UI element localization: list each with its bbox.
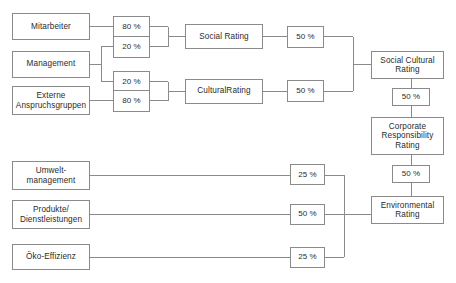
weight-mitarbeiter-social[interactable]: 80 % <box>113 16 150 38</box>
node-cultural-rating[interactable]: CulturalRating <box>185 79 263 104</box>
weight-oeko[interactable]: 25 % <box>290 247 325 268</box>
node-produkte-dienstleistungen[interactable]: Produkte/ Dienstleistungen <box>12 200 90 229</box>
node-corporate-responsibility-rating[interactable]: Corporate Responsibility Rating <box>371 117 444 155</box>
weight-management-social[interactable]: 20 % <box>113 36 150 58</box>
node-umweltmanagement[interactable]: Umwelt- management <box>12 161 90 190</box>
node-environmental-rating[interactable]: Environmental Rating <box>371 196 444 224</box>
node-management[interactable]: Management <box>12 51 90 78</box>
node-oeko-effizienz[interactable]: Öko-Effizienz <box>12 244 90 270</box>
weight-socialcultural-corporate[interactable]: 50 % <box>392 88 430 106</box>
node-social-rating[interactable]: Social Rating <box>185 24 263 49</box>
weight-externe-cultural[interactable]: 80 % <box>113 90 150 112</box>
weight-social-rating[interactable]: 50 % <box>287 26 324 48</box>
diagram-canvas: Mitarbeiter Management Externe Anspruchs… <box>0 0 456 283</box>
node-externe-anspruchsgruppen[interactable]: Externe Anspruchsgruppen <box>12 86 90 115</box>
weight-produkte[interactable]: 50 % <box>290 204 325 225</box>
weight-umwelt[interactable]: 25 % <box>290 164 325 185</box>
node-social-cultural-rating[interactable]: Social Cultural Rating <box>371 51 444 79</box>
node-mitarbeiter[interactable]: Mitarbeiter <box>12 13 90 40</box>
weight-environmental-corporate[interactable]: 50 % <box>392 165 430 183</box>
weight-cultural-rating[interactable]: 50 % <box>287 80 324 102</box>
